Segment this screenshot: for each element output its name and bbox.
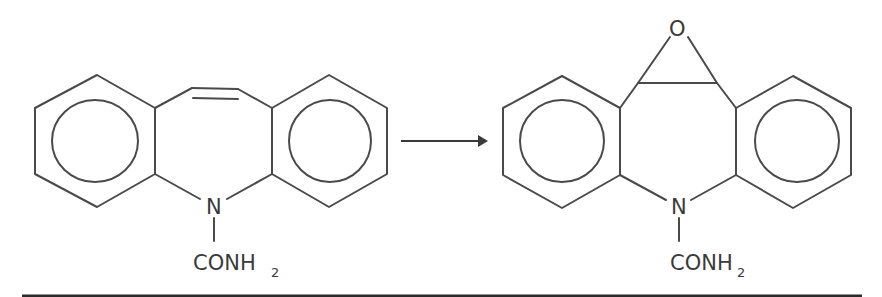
product-nitrogen-label: N <box>671 195 687 219</box>
reaction-diagram: N CONH 2 O N <box>0 0 882 297</box>
product-right-benzene-ring <box>736 76 851 208</box>
reactant-molecule: N CONH 2 <box>35 75 387 280</box>
svg-text:CONH: CONH <box>193 251 256 275</box>
product-molecule: O N CONH 2 <box>503 17 851 280</box>
reactant-right-benzene-ring <box>272 75 387 207</box>
product-oxygen-label: O <box>669 17 686 41</box>
reactant-left-benzene-ring <box>35 75 155 207</box>
reaction-arrow-icon <box>401 135 488 147</box>
svg-text:2: 2 <box>737 265 745 280</box>
product-carboxamide-label: CONH 2 <box>670 251 745 280</box>
svg-text:2: 2 <box>271 265 279 280</box>
product-epoxide-bonds <box>638 37 717 83</box>
reactant-nitrogen-label: N <box>206 195 222 219</box>
reactant-carboxamide-label: CONH 2 <box>193 251 279 280</box>
product-left-benzene-ring <box>503 76 620 208</box>
svg-text:CONH: CONH <box>670 251 733 275</box>
